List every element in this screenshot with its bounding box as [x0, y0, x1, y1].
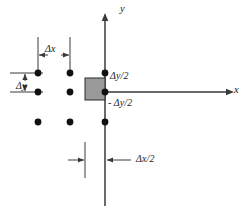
delta-y-half-bottom-label: - Δy/2 [108, 98, 132, 108]
grid-dot [35, 70, 42, 77]
delta-x-half-label: Δx/2 [136, 154, 155, 164]
y-axis-label: y [120, 4, 125, 15]
control-volume-rect [85, 78, 105, 100]
delta-y-label: Δy [16, 81, 27, 91]
grid-dot [35, 89, 42, 96]
figure-canvas: y x Δx Δy Δy/2 - Δy/2 Δx/2 [0, 0, 244, 218]
grid-dot [102, 89, 109, 96]
grid-dot [67, 70, 74, 77]
delta-x-half-annotation [68, 142, 131, 178]
delta-y-half-top-label: Δy/2 [110, 71, 129, 81]
x-axis-arrowhead [226, 89, 234, 96]
grid-dot [67, 89, 74, 96]
grid-dot [35, 119, 42, 126]
delta-x-label: Δx [45, 44, 56, 54]
grid-dot [102, 70, 109, 77]
grid-dot [67, 119, 74, 126]
axes-group [102, 13, 234, 206]
grid-dot [102, 119, 109, 126]
x-axis-label: x [234, 85, 239, 96]
y-axis-arrowhead [102, 13, 109, 21]
grid-diagram [0, 0, 244, 218]
